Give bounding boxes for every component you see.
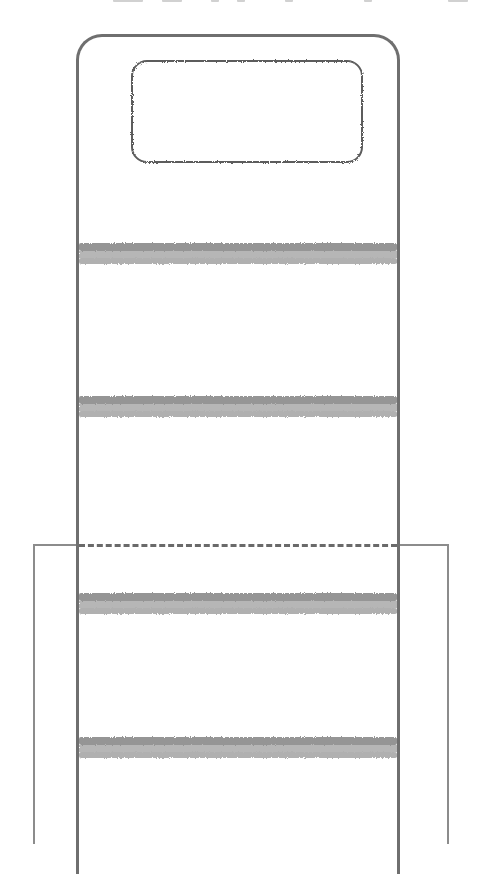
shelf-4 [79,735,397,761]
shelf-2 [79,394,397,420]
shelf-1 [79,241,397,267]
cropped-text-fragment [211,0,219,2]
display-window [131,60,363,163]
cropped-text-fragment [285,0,293,2]
cropped-text-fragment [237,0,245,2]
cropped-text-fragment [364,0,372,2]
dashed-divider-line [79,544,397,547]
cropped-text-fragment [448,0,468,2]
cropped-text-fragment [162,0,182,2]
cropped-text-fragment [113,0,143,2]
shelf-3 [79,591,397,617]
